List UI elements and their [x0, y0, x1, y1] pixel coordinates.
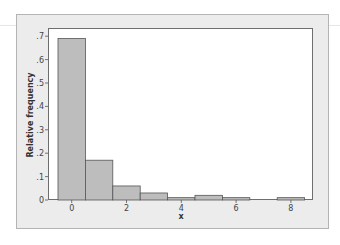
- bar-x-6: [222, 198, 249, 200]
- bar-x-4: [168, 198, 195, 200]
- y-tick-label: .2: [36, 149, 44, 158]
- y-tick-label: .1: [36, 173, 44, 182]
- x-tick-label: 0: [69, 204, 74, 213]
- y-axis-label: Relative frequency: [26, 72, 35, 157]
- x-tick-label: 2: [124, 204, 129, 213]
- x-tick-label: 8: [288, 204, 293, 213]
- bar-x-2: [113, 186, 140, 200]
- y-tick-label: .6: [36, 56, 44, 65]
- bar-x-0: [58, 39, 85, 200]
- bar-x-5: [195, 195, 222, 200]
- x-tick-label: 6: [234, 204, 239, 213]
- y-tick-label: .4: [36, 102, 44, 111]
- y-tick-label: 0: [39, 196, 44, 205]
- x-axis-label: x: [178, 212, 183, 221]
- bar-x-3: [140, 193, 167, 200]
- bar-x-1: [85, 160, 112, 200]
- histogram: 0.1.2.3.4.5.6.702468: [0, 0, 340, 245]
- bar-x-8: [277, 198, 304, 200]
- y-tick-label: .7: [36, 32, 44, 41]
- y-tick-label: .3: [36, 126, 44, 135]
- y-tick-label: .5: [36, 79, 44, 88]
